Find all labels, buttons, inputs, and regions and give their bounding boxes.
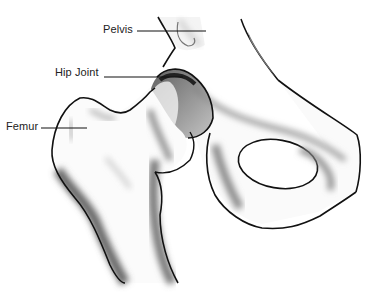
pelvis-label: Pelvis [103,23,133,35]
hip-anatomy-illustration [0,0,380,304]
femur-label: Femur [6,120,38,132]
hip-joint-label: Hip Joint [55,66,99,78]
